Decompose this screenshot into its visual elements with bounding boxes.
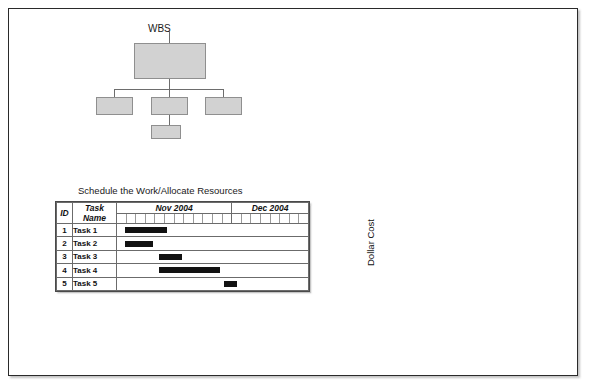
tick-mark	[194, 214, 204, 223]
row-timeline-lane	[117, 224, 309, 237]
tick-mark	[127, 214, 137, 223]
row-task-name: Task 3	[73, 250, 117, 263]
tick-mark	[213, 214, 223, 223]
row-id: 4	[57, 264, 73, 277]
column-header-task-line2: Name	[73, 213, 116, 223]
row-task-name: Task 5	[73, 277, 117, 290]
gantt-bar-task-4[interactable]	[159, 267, 220, 273]
table-header-row-months: ID Task Name Nov 2004 Dec 2004	[57, 203, 309, 214]
figure-frame: WBS Schedule the Work/Allocate Resources…	[8, 8, 578, 376]
gantt-table-grid: ID Task Name Nov 2004 Dec 2004	[56, 202, 309, 291]
tick-row-nov	[117, 214, 232, 224]
tick-mark	[155, 214, 165, 223]
row-timeline-lane	[117, 264, 309, 277]
row-id: 1	[57, 224, 73, 237]
month-header-nov: Nov 2004	[117, 203, 232, 214]
row-task-name: Task 4	[73, 264, 117, 277]
s-curve-chart: Time-Phased Budget Profile S-Curve Dolla…	[339, 69, 589, 284]
tick-mark	[290, 214, 300, 223]
tick-mark	[165, 214, 175, 223]
tick-mark	[280, 214, 290, 223]
row-timeline-lane	[117, 250, 309, 263]
tick-mark	[232, 214, 242, 223]
table-row[interactable]: 1 Task 1	[57, 224, 309, 237]
column-header-id: ID	[57, 203, 73, 224]
month-header-dec: Dec 2004	[232, 203, 309, 214]
schedule-section: Schedule the Work/Allocate Resources ID …	[9, 9, 329, 309]
tick-mark	[242, 214, 252, 223]
tick-mark	[203, 214, 213, 223]
tick-mark	[175, 214, 185, 223]
row-task-name: Task 1	[73, 224, 117, 237]
schedule-title: Schedule the Work/Allocate Resources	[78, 185, 243, 196]
column-header-task-line1: Task	[73, 203, 116, 213]
tick-mark	[261, 214, 271, 223]
tick-mark	[136, 214, 146, 223]
table-row[interactable]: 2 Task 2	[57, 237, 309, 250]
column-header-task-name: Task Name	[73, 203, 117, 224]
tick-mark	[146, 214, 156, 223]
row-id: 2	[57, 237, 73, 250]
budget-histogram: Time-Phased Budget	[9, 309, 309, 386]
tick-mark	[271, 214, 281, 223]
tick-row-dec	[232, 214, 309, 224]
gantt-bar-task-5[interactable]	[224, 281, 237, 287]
row-task-name: Task 2	[73, 237, 117, 250]
table-row[interactable]: 3 Task 3	[57, 250, 309, 263]
schedule-table: ID Task Name Nov 2004 Dec 2004	[55, 201, 310, 292]
row-timeline-lane	[117, 277, 309, 290]
table-row[interactable]: 4 Task 4	[57, 264, 309, 277]
tick-mark	[299, 214, 308, 223]
gantt-bar-task-3[interactable]	[159, 254, 182, 260]
tick-mark	[117, 214, 127, 223]
row-id: 5	[57, 277, 73, 290]
tick-mark	[251, 214, 261, 223]
row-timeline-lane	[117, 237, 309, 250]
row-id: 3	[57, 250, 73, 263]
table-row[interactable]: 5 Task 5	[57, 277, 309, 290]
tick-mark	[223, 214, 232, 223]
gantt-bar-task-1[interactable]	[125, 227, 167, 233]
gantt-bar-task-2[interactable]	[125, 241, 154, 247]
y-axis-label: Dollar Cost	[365, 208, 376, 278]
tick-mark	[184, 214, 194, 223]
